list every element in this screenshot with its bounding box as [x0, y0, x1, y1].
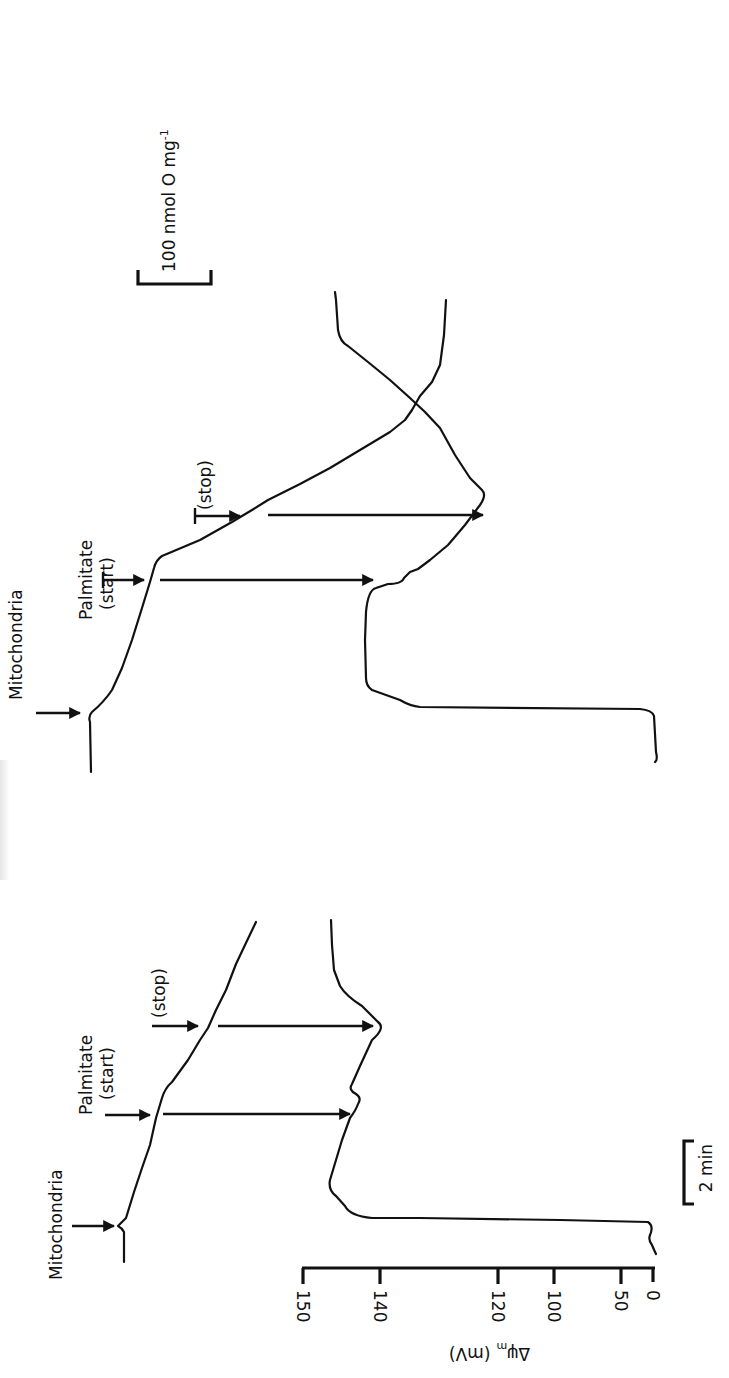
- start-label-lower: (start): [97, 1047, 117, 1100]
- mitochondria-label-upper: Mitochondria: [6, 589, 26, 700]
- palmitate-label-upper: Palmitate: [76, 540, 96, 620]
- axis-title: Δψm(mV): [449, 1340, 530, 1364]
- tick-label-140: 140: [370, 1290, 390, 1322]
- oxygen-trace-lower: [118, 922, 256, 1262]
- mitochondria-label-lower: Mitochondria: [46, 1169, 66, 1280]
- time-scale-bar: [684, 1141, 694, 1204]
- membrane-potential-trace-lower: [330, 920, 656, 1254]
- stop-label-upper: (stop): [195, 460, 215, 510]
- tick-label-150: 150: [293, 1290, 313, 1322]
- membrane-potential-trace-upper: [335, 292, 657, 762]
- tick-label-50: 50: [611, 1290, 631, 1312]
- figure-canvas: 100 nmol O mg-1 Mitochondria Palmitate (…: [0, 0, 729, 1378]
- lower-panel: Mitochondria Palmitate (start) (stop) 2 …: [46, 920, 716, 1364]
- membrane-potential-axis: 150 140 120 100 50 0 Δψm(mV): [293, 1268, 663, 1364]
- palmitate-label-lower: Palmitate: [76, 1035, 96, 1115]
- start-label-upper: (start): [97, 557, 117, 610]
- oxygen-trace-upper: [89, 300, 446, 772]
- tick-label-100: 100: [544, 1290, 564, 1322]
- oxygen-scale-label: 100 nmol O mg-1: [158, 129, 179, 272]
- upper-panel: 100 nmol O mg-1 Mitochondria Palmitate (…: [6, 129, 657, 772]
- tick-label-120: 120: [488, 1290, 508, 1322]
- stop-label-lower: (stop): [149, 968, 169, 1018]
- time-scale-label: 2 min: [696, 1144, 716, 1192]
- tick-label-0: 0: [643, 1290, 663, 1301]
